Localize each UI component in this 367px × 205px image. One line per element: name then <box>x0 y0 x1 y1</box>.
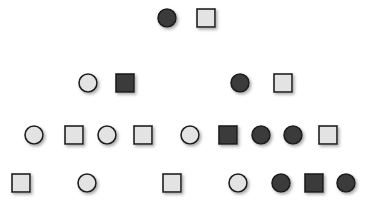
circle-symbol[interactable] <box>252 126 270 144</box>
circle-symbol[interactable] <box>25 126 43 144</box>
circle-symbol[interactable] <box>229 174 247 192</box>
person-male-affected[interactable] <box>305 174 323 192</box>
person-male-unaffected[interactable] <box>65 126 83 144</box>
person-female-unaffected[interactable] <box>229 174 247 192</box>
person-female-affected[interactable] <box>158 9 176 27</box>
person-female-affected[interactable] <box>284 126 302 144</box>
circle-symbol[interactable] <box>231 74 249 92</box>
square-symbol[interactable] <box>163 174 181 192</box>
person-male-unaffected[interactable] <box>134 126 152 144</box>
person-male-unaffected[interactable] <box>319 126 337 144</box>
person-male-unaffected[interactable] <box>274 74 292 92</box>
circle-symbol[interactable] <box>284 126 302 144</box>
person-female-affected[interactable] <box>231 74 249 92</box>
circle-symbol[interactable] <box>181 126 199 144</box>
square-symbol[interactable] <box>197 9 215 27</box>
circle-symbol[interactable] <box>98 126 116 144</box>
square-symbol[interactable] <box>116 74 134 92</box>
person-female-unaffected[interactable] <box>181 126 199 144</box>
circle-symbol[interactable] <box>79 74 97 92</box>
square-symbol[interactable] <box>274 74 292 92</box>
person-male-unaffected[interactable] <box>197 9 215 27</box>
symbol-layer <box>12 9 355 192</box>
person-female-unaffected[interactable] <box>79 74 97 92</box>
person-female-affected[interactable] <box>337 174 355 192</box>
square-symbol[interactable] <box>219 126 237 144</box>
person-male-affected[interactable] <box>219 126 237 144</box>
person-female-affected[interactable] <box>252 126 270 144</box>
person-female-affected[interactable] <box>272 174 290 192</box>
circle-symbol[interactable] <box>78 174 96 192</box>
square-symbol[interactable] <box>319 126 337 144</box>
person-male-unaffected[interactable] <box>12 174 30 192</box>
circle-symbol[interactable] <box>337 174 355 192</box>
person-male-affected[interactable] <box>116 74 134 92</box>
square-symbol[interactable] <box>12 174 30 192</box>
person-male-unaffected[interactable] <box>163 174 181 192</box>
pedigree-canvas <box>0 0 367 205</box>
square-symbol[interactable] <box>305 174 323 192</box>
square-symbol[interactable] <box>65 126 83 144</box>
person-female-unaffected[interactable] <box>25 126 43 144</box>
person-female-unaffected[interactable] <box>98 126 116 144</box>
pedigree-chart <box>0 0 367 205</box>
circle-symbol[interactable] <box>272 174 290 192</box>
connector-layer <box>21 18 346 174</box>
person-female-unaffected[interactable] <box>78 174 96 192</box>
circle-symbol[interactable] <box>158 9 176 27</box>
square-symbol[interactable] <box>134 126 152 144</box>
